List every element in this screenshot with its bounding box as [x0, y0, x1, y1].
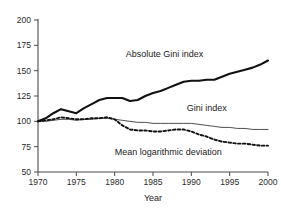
y-tick-label-175: 175	[17, 40, 31, 50]
x-tick-label-1980: 1980	[105, 177, 124, 187]
x-tick-label-1990: 1990	[182, 177, 201, 187]
y-tick-label-50: 50	[22, 167, 32, 177]
series-annotations: Absolute Gini indexGini indexMean logari…	[115, 49, 227, 157]
series-line-mean-logarithmic-deviation	[38, 117, 268, 145]
annotation-absolute-gini-index: Absolute Gini index	[126, 49, 204, 59]
x-tick-label-1970: 1970	[29, 177, 48, 187]
data-series-group	[38, 61, 268, 146]
line-chart: 5075100125150175200 19701975198019851990…	[0, 0, 281, 214]
y-tick-label-75: 75	[22, 142, 32, 152]
y-tick-label-100: 100	[17, 116, 31, 126]
x-tick-label-1995: 1995	[220, 177, 239, 187]
y-axis-tick-labels: 5075100125150175200	[17, 15, 31, 177]
series-line-gini-index	[38, 118, 268, 129]
x-axis-tick-labels: 1970197519801985199019952000	[29, 177, 278, 187]
x-tick-label-2000: 2000	[259, 177, 278, 187]
x-tick-label-1985: 1985	[144, 177, 163, 187]
chart-container: 5075100125150175200 19701975198019851990…	[0, 0, 281, 214]
x-tick-label-1975: 1975	[67, 177, 86, 187]
annotation-gini-index: Gini index	[187, 103, 228, 113]
x-axis-title: Year	[144, 193, 162, 203]
series-line-absolute-gini-index	[38, 61, 268, 122]
y-tick-label-150: 150	[17, 66, 31, 76]
y-tick-label-125: 125	[17, 91, 31, 101]
y-axis-ticks	[34, 20, 38, 172]
x-axis-ticks	[38, 172, 268, 176]
y-tick-label-200: 200	[17, 15, 31, 25]
annotation-mean-logarithmic-deviation: Mean logarithmic deviation	[115, 147, 222, 157]
